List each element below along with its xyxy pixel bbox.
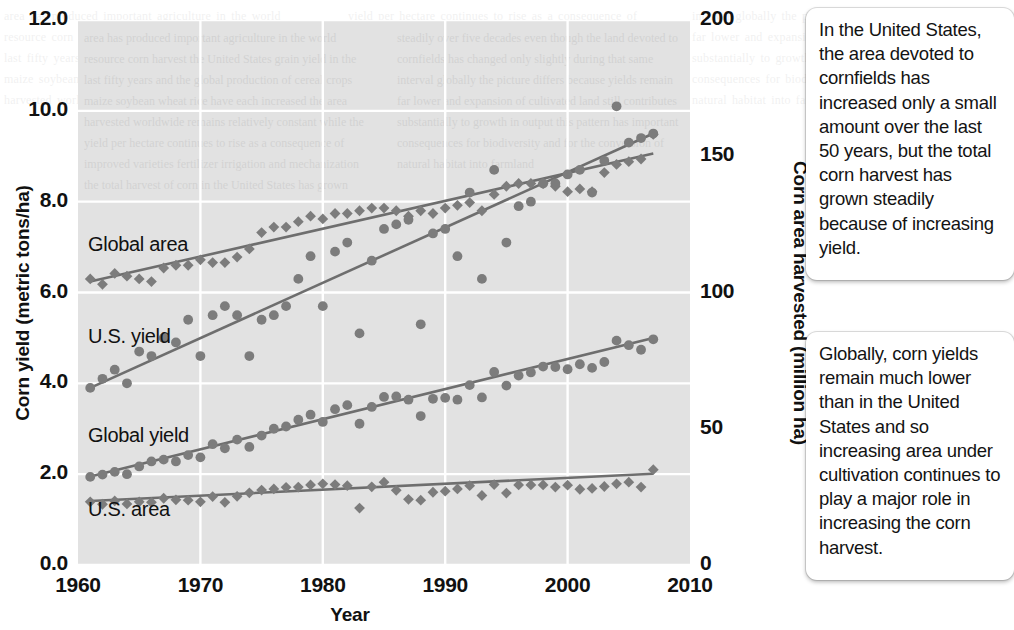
axis-tick-label: 2010 xyxy=(650,573,730,597)
callout-global-yield-note: Globally, corn yields remain much lower … xyxy=(806,332,1014,580)
x-axis-title: Year xyxy=(0,604,700,626)
axis-tick-label: 6.0 xyxy=(40,279,68,303)
axis-tick-label: 200 xyxy=(700,6,734,30)
axis-tick-label: 1970 xyxy=(160,573,240,597)
series-points xyxy=(85,129,659,290)
y-axis-left-title: Corn yield (metric tons/ha) xyxy=(12,173,34,433)
plot-area: area has produced important agriculture … xyxy=(78,20,690,565)
series-label-global-yield: Global yield xyxy=(88,424,189,447)
axis-tick-label: 1980 xyxy=(283,573,363,597)
axis-tick-label: 0.0 xyxy=(40,551,68,575)
axis-tick-label: 2.0 xyxy=(40,460,68,484)
axis-tick-label: 100 xyxy=(700,279,734,303)
axis-tick-label: 8.0 xyxy=(40,188,68,212)
series-points xyxy=(85,334,658,481)
chart-canvas xyxy=(78,20,690,565)
series-points xyxy=(85,464,659,513)
callout-us-area-note: In the United States, the area devoted t… xyxy=(806,8,1014,280)
series-label-us-yield: U.S. yield xyxy=(88,325,171,348)
axis-tick-label: 1990 xyxy=(405,573,485,597)
axis-tick-label: 1960 xyxy=(38,573,118,597)
axis-tick-label: 2000 xyxy=(528,573,608,597)
axis-tick-label: 4.0 xyxy=(40,369,68,393)
axis-tick-label: 12.0 xyxy=(28,6,68,30)
chart-figure: area has produced important agriculture … xyxy=(0,0,700,630)
series-label-us-area: U.S. area xyxy=(88,498,170,521)
series-label-global-area: Global area xyxy=(88,233,188,256)
axis-tick-label: 0 xyxy=(700,551,711,575)
axis-tick-label: 50 xyxy=(700,415,723,439)
axis-tick-label: 150 xyxy=(700,142,734,166)
axis-tick-label: 10.0 xyxy=(28,97,68,121)
